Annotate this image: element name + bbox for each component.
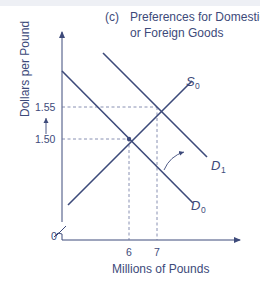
panel-label: (c) — [105, 10, 119, 24]
x-axis-label: Millions of Pounds — [112, 262, 209, 276]
svg-text:D: D — [211, 158, 220, 173]
y-axis — [54, 32, 66, 240]
svg-text:1: 1 — [221, 165, 226, 175]
label-d0: D 0 — [191, 198, 206, 215]
demand-curve-d0 — [62, 71, 193, 203]
supply-curve-s0 — [68, 81, 192, 205]
x-tick-6: 6 — [126, 246, 132, 258]
x-tick-7: 7 — [154, 246, 160, 258]
y-axis-label: Dollars per Pound — [18, 21, 32, 117]
equilibrium-point — [127, 137, 131, 141]
svg-text:D: D — [191, 198, 200, 213]
svg-text:0: 0 — [195, 81, 200, 91]
y-tick-1-50: 1.50 — [35, 133, 56, 145]
label-s0: S 0 — [186, 74, 200, 91]
origin-label: 0 — [51, 230, 57, 242]
svg-text:0: 0 — [201, 205, 206, 215]
chart-title-line1: Preferences for Domestic — [130, 10, 260, 24]
supply-demand-chart: (c) Preferences for Domestic or Foreign … — [0, 0, 260, 289]
chart-title-line2: or Foreign Goods — [130, 26, 223, 40]
guide-lines — [62, 107, 157, 240]
y-tick-1-55: 1.55 — [35, 101, 56, 113]
label-d1: D 1 — [211, 158, 226, 175]
svg-text:S: S — [186, 74, 195, 89]
demand-curve-d1 — [103, 53, 207, 157]
shift-arrow-icon — [164, 152, 184, 170]
